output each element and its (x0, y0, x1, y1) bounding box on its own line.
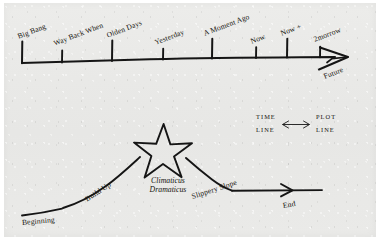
plot-line-group (22, 124, 322, 216)
plot-segment-end (232, 190, 322, 191)
legend-plot-line-word2: LINE (316, 126, 335, 133)
climax-label-line2: Dramaticus (150, 185, 187, 194)
legend-arrow-group (283, 121, 310, 128)
time-line-axis (22, 57, 335, 63)
figure-container: Big Bang Way Back When Olden Days Yester… (0, 0, 380, 240)
star-icon (134, 124, 192, 178)
legend-time-line-word2: LINE (256, 126, 275, 133)
climax-label-line1: Climaticus (151, 176, 185, 185)
legend-plot-line-word1: PLOT (316, 113, 336, 120)
time-line-group (22, 39, 348, 70)
plot-segment-beginning (22, 209, 62, 216)
plot-label-climax: Climaticus Dramaticus (125, 176, 211, 194)
legend-time-line-word1: TIME (256, 113, 276, 120)
